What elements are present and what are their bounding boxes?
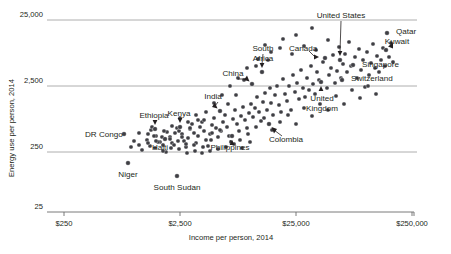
data-point bbox=[271, 113, 275, 117]
annotation-label: Philippines bbox=[210, 143, 249, 152]
data-point bbox=[192, 131, 196, 135]
y-tick-label: 250 bbox=[30, 142, 43, 151]
data-point bbox=[311, 82, 315, 86]
data-point bbox=[162, 129, 166, 133]
data-point bbox=[137, 143, 141, 147]
data-point bbox=[343, 52, 347, 56]
data-point bbox=[331, 53, 335, 57]
data-point bbox=[225, 125, 229, 129]
data-point bbox=[247, 111, 251, 115]
y-tick-label: 2,500 bbox=[24, 76, 43, 85]
annotation-label: Canada bbox=[289, 44, 318, 53]
annotation-label: DR Congo bbox=[85, 130, 123, 139]
annotation-label: Haiti bbox=[152, 143, 168, 152]
data-point bbox=[345, 70, 349, 74]
annotation-label: Ethiopia bbox=[139, 111, 169, 120]
data-point bbox=[223, 113, 227, 117]
data-point bbox=[196, 134, 200, 138]
data-point bbox=[192, 143, 196, 147]
data-point bbox=[287, 84, 291, 88]
data-point bbox=[196, 118, 200, 122]
data-point bbox=[152, 134, 156, 138]
data-point-switzerland bbox=[340, 78, 345, 83]
data-point bbox=[168, 137, 172, 141]
data-point bbox=[375, 54, 379, 58]
data-point bbox=[200, 151, 204, 155]
data-point bbox=[374, 92, 378, 96]
annotation-label: United States bbox=[317, 11, 366, 20]
annotation-label: Singapore bbox=[362, 60, 399, 69]
data-point bbox=[278, 120, 282, 124]
data-point bbox=[371, 42, 375, 46]
data-point bbox=[194, 113, 198, 117]
data-point-united-kingdom bbox=[319, 80, 324, 85]
data-point bbox=[278, 46, 282, 50]
data-point bbox=[303, 95, 307, 99]
data-point bbox=[249, 102, 253, 106]
data-point bbox=[173, 131, 177, 135]
data-point bbox=[285, 99, 289, 103]
data-point bbox=[238, 138, 242, 142]
data-point bbox=[269, 101, 273, 105]
annotation-label: Kingdom bbox=[306, 104, 338, 113]
data-point bbox=[253, 106, 257, 110]
y-tick-label: 25,000 bbox=[20, 10, 43, 19]
leader-arrowhead bbox=[260, 63, 265, 68]
data-point bbox=[325, 86, 329, 90]
data-point-ethiopia bbox=[153, 127, 158, 132]
data-point bbox=[335, 69, 339, 73]
data-point bbox=[261, 100, 265, 104]
data-point bbox=[277, 103, 281, 107]
data-point bbox=[254, 64, 258, 68]
data-point bbox=[193, 149, 197, 153]
x-tick-label: $2,500 bbox=[168, 219, 191, 228]
data-point bbox=[326, 38, 330, 42]
x-axis-title: Income per person, 2014 bbox=[189, 233, 273, 242]
data-point-philippines bbox=[230, 134, 235, 139]
annotation-label: Qatar bbox=[396, 27, 417, 36]
data-point bbox=[254, 125, 258, 129]
data-point bbox=[265, 108, 269, 112]
data-point bbox=[212, 116, 216, 120]
data-point bbox=[185, 151, 189, 155]
leader-arrowhead bbox=[319, 86, 324, 91]
data-point bbox=[305, 76, 309, 80]
data-point bbox=[294, 122, 298, 126]
data-point bbox=[170, 124, 174, 128]
data-point bbox=[202, 118, 206, 122]
data-point bbox=[310, 26, 314, 30]
data-point bbox=[201, 145, 205, 149]
data-point bbox=[315, 70, 319, 74]
data-point bbox=[301, 86, 305, 90]
data-point bbox=[310, 114, 314, 118]
data-point bbox=[289, 108, 293, 112]
data-point bbox=[297, 97, 301, 101]
data-point bbox=[342, 102, 346, 106]
data-point bbox=[295, 81, 299, 85]
data-point bbox=[246, 132, 250, 136]
data-point bbox=[245, 126, 249, 130]
data-point bbox=[190, 122, 194, 126]
data-point bbox=[281, 37, 285, 41]
data-point bbox=[321, 60, 325, 64]
data-point bbox=[309, 64, 313, 68]
data-point bbox=[333, 81, 337, 85]
data-point-south-africa bbox=[260, 70, 265, 75]
data-point bbox=[204, 110, 208, 114]
data-point bbox=[176, 139, 180, 143]
data-point bbox=[255, 95, 259, 99]
annotation-label: China bbox=[222, 69, 244, 78]
data-point bbox=[286, 113, 290, 117]
data-point bbox=[387, 55, 391, 59]
data-point bbox=[279, 110, 283, 114]
data-point bbox=[216, 135, 220, 139]
data-point bbox=[283, 92, 287, 96]
data-point bbox=[234, 93, 238, 97]
annotation-label: United bbox=[310, 94, 333, 103]
data-point bbox=[358, 96, 362, 100]
data-point bbox=[341, 62, 345, 66]
data-point bbox=[327, 73, 331, 77]
data-point bbox=[231, 117, 235, 121]
data-point-colombia bbox=[267, 122, 272, 127]
data-point bbox=[186, 120, 190, 124]
